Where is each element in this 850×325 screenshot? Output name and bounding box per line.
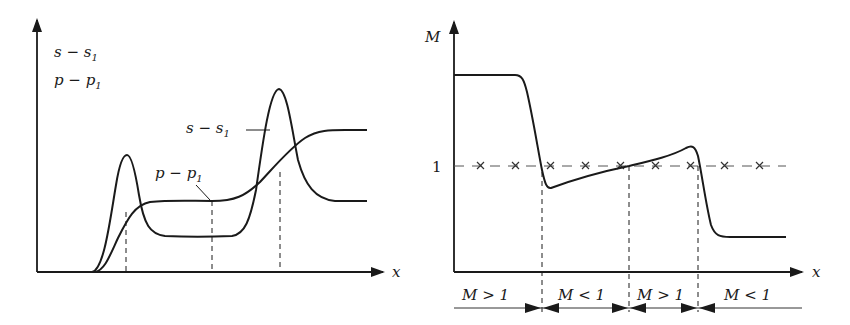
region-label-2: M < 1: [557, 286, 605, 304]
flow-arrowheads: [525, 303, 715, 313]
region-label-1: M > 1: [461, 286, 509, 304]
left-y-label-s: s − s1: [54, 43, 98, 63]
p-curve-leader: [196, 185, 210, 200]
region-label-3: M > 1: [636, 286, 684, 304]
right-y-axis-label: M: [424, 28, 441, 46]
diagram-canvas: x s − s1 p − p1 s − s1 p − p1 M x 1: [0, 0, 850, 325]
right-plot: M x 1 M > 1 M < 1 M > 1 M < 1: [424, 22, 821, 313]
mach-number-curve: [454, 75, 786, 237]
p-curve-label: p − p1: [155, 164, 203, 184]
left-y-label-p: p − p1: [54, 71, 102, 91]
right-x-axis-label: x: [812, 263, 821, 281]
region-label-4: M < 1: [723, 286, 771, 304]
s-curve-label: s − s1: [186, 119, 230, 139]
s-minus-s1-curve: [37, 130, 367, 272]
left-x-axis-label: x: [392, 263, 401, 281]
right-y-tick-1: 1: [432, 158, 442, 176]
left-plot: x s − s1 p − p1 s − s1 p − p1: [37, 20, 401, 281]
